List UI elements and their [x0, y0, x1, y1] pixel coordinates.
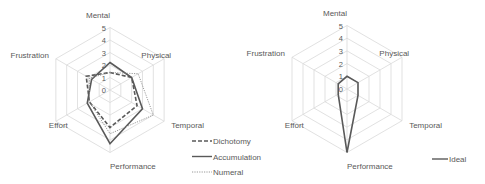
radar-chart-right: 012345MentalPhysicalTemporalPerformanceE…: [247, 9, 467, 171]
tick-label: 0: [339, 85, 343, 94]
radar-charts-canvas: 012345MentalPhysicalTemporalPerformanceE…: [0, 0, 485, 184]
tick-label: 2: [339, 60, 343, 69]
category-label-frustration: Frustration: [247, 49, 285, 58]
category-label-performance: Performance: [110, 162, 156, 171]
legend-item-ideal: Ideal: [432, 155, 467, 164]
legend-label: Dichotomy: [213, 137, 251, 146]
category-label-temporal: Temporal: [409, 121, 442, 130]
category-label-mental: Mental: [86, 11, 110, 20]
category-label-physical: Physical: [141, 51, 171, 60]
legend-item-dichotomy: Dichotomy: [192, 137, 251, 146]
grid: [56, 28, 164, 153]
category-label-physical: Physical: [379, 49, 409, 58]
category-label-mental: Mental: [323, 9, 347, 18]
category-label-effort: Effort: [285, 121, 305, 130]
grid: [292, 26, 402, 153]
legend-label: Accumulation: [213, 153, 261, 162]
tick-label: 5: [102, 24, 106, 33]
figure: 012345MentalPhysicalTemporalPerformanceE…: [0, 0, 485, 184]
tick-label: 0: [102, 86, 106, 95]
category-label-performance: Performance: [347, 162, 393, 171]
legend-item-numeral: Numeral: [192, 168, 243, 177]
tick-label: 3: [339, 47, 343, 56]
legend-label: Ideal: [449, 155, 467, 164]
category-label-frustration: Frustration: [11, 51, 49, 60]
category-label-effort: Effort: [49, 121, 69, 130]
radar-chart-left: 012345MentalPhysicalTemporalPerformanceE…: [11, 11, 261, 177]
tick-label: 4: [339, 34, 343, 43]
legend-label: Numeral: [213, 168, 243, 177]
tick-label: 3: [102, 49, 106, 58]
category-label-temporal: Temporal: [171, 121, 204, 130]
legend-item-accumulation: Accumulation: [192, 153, 261, 162]
tick-label: 4: [102, 36, 106, 45]
tick-label: 5: [339, 22, 343, 31]
